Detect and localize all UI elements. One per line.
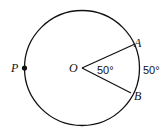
circle-diagram: P O A B 50° 50°: [0, 0, 167, 135]
label-b: B: [134, 89, 142, 103]
arc-measure-label: 50°: [143, 64, 160, 76]
point-p-dot: [22, 65, 27, 70]
label-a: A: [133, 36, 142, 50]
label-p: P: [10, 61, 19, 75]
central-angle-label: 50°: [97, 64, 114, 76]
label-o: O: [69, 61, 78, 75]
